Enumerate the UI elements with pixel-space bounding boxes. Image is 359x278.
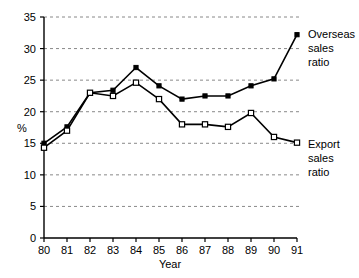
- x-axis-title: Year: [159, 258, 182, 270]
- x-tick-label-83: 83: [107, 244, 119, 256]
- annotation-export-sales-ratio: Export sales ratio: [308, 138, 340, 178]
- x-tick-label-84: 84: [130, 244, 142, 256]
- x-tick-label-89: 89: [245, 244, 257, 256]
- y-tick-label-25: 25: [24, 74, 36, 86]
- data-point-overseas-91: [295, 33, 299, 37]
- x-tick-label-82: 82: [84, 244, 96, 256]
- x-tick-labels-group: 808182838485868788899091: [38, 244, 303, 256]
- data-point-export-82: [87, 90, 92, 95]
- data-point-overseas-86: [180, 97, 184, 101]
- annotation-overseas-line-1: Overseas: [308, 28, 356, 40]
- y-tick-label-15: 15: [24, 137, 36, 149]
- data-point-export-84: [133, 80, 138, 85]
- data-point-overseas-88: [226, 94, 230, 98]
- y-axis-title: %: [17, 122, 27, 134]
- data-point-export-88: [225, 124, 230, 129]
- data-point-export-90: [271, 134, 276, 139]
- y-tick-label-35: 35: [24, 11, 36, 23]
- y-tick-label-0: 0: [30, 232, 36, 244]
- series-line-overseas: [44, 35, 297, 144]
- x-tick-label-81: 81: [61, 244, 73, 256]
- y-tick-label-20: 20: [24, 106, 36, 118]
- annotation-export-line-1: Export: [308, 138, 340, 150]
- x-tick-label-86: 86: [176, 244, 188, 256]
- y-tick-label-10: 10: [24, 169, 36, 181]
- y-tick-label-30: 30: [24, 43, 36, 55]
- annotation-export-line-3: ratio: [308, 166, 329, 178]
- data-point-overseas-90: [272, 77, 276, 81]
- x-tick-label-91: 91: [291, 244, 303, 256]
- annotation-export-line-2: sales: [308, 152, 334, 164]
- data-point-export-85: [156, 96, 161, 101]
- annotation-overseas-sales-ratio: Overseas sales ratio: [308, 28, 356, 68]
- data-point-overseas-83: [111, 88, 115, 92]
- data-point-overseas-85: [157, 84, 161, 88]
- x-tick-label-87: 87: [199, 244, 211, 256]
- data-point-export-91: [294, 140, 299, 145]
- data-point-overseas-87: [203, 94, 207, 98]
- data-point-export-81: [64, 128, 69, 133]
- x-tick-label-80: 80: [38, 244, 50, 256]
- x-tick-label-90: 90: [268, 244, 280, 256]
- data-point-export-87: [202, 122, 207, 127]
- data-point-export-80: [41, 145, 46, 150]
- data-point-export-86: [179, 122, 184, 127]
- y-tick-label-5: 5: [30, 200, 36, 212]
- annotation-overseas-line-2: sales: [308, 42, 334, 54]
- chart-canvas: 05101520253035 808182838485868788899091 …: [0, 0, 359, 278]
- series-lines-group: [44, 35, 297, 148]
- x-tick-label-88: 88: [222, 244, 234, 256]
- data-point-export-83: [110, 93, 115, 98]
- line-chart: 05101520253035 808182838485868788899091 …: [0, 0, 359, 278]
- series-markers-group: [41, 33, 299, 151]
- data-point-export-89: [248, 110, 253, 115]
- data-point-overseas-84: [134, 65, 138, 69]
- annotation-overseas-line-3: ratio: [308, 56, 329, 68]
- x-tick-label-85: 85: [153, 244, 165, 256]
- data-point-overseas-89: [249, 84, 253, 88]
- gridlines-group: [44, 17, 301, 206]
